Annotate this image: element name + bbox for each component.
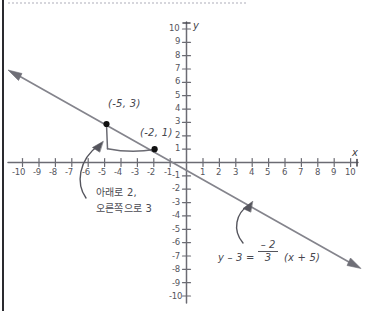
y-tick-label--4: -4 bbox=[172, 211, 180, 220]
y-tick-label-10: 10 bbox=[169, 24, 179, 33]
x-tick-label-7: 7 bbox=[298, 168, 303, 177]
x-tick-label--5: -5 bbox=[98, 168, 106, 177]
y-tick-label--7: -7 bbox=[172, 252, 180, 261]
korean-note-line-1: 아래로 2, bbox=[96, 188, 137, 198]
x-tick-label--9: -9 bbox=[33, 168, 41, 177]
axis-endcaps bbox=[183, 23, 357, 166]
x-tick-label-4: 4 bbox=[249, 168, 254, 177]
y-tick-label--8: -8 bbox=[172, 265, 180, 274]
x-axis-label: x bbox=[352, 148, 358, 158]
point-label-a: (-5, 3) bbox=[108, 99, 141, 109]
y-tick-label-6: 6 bbox=[175, 77, 180, 86]
graph-screenshot: -10 -9 -8 -7 -6 -5 -4 -3 -2 -1 1 2 3 4 5… bbox=[0, 0, 374, 311]
y-tick-label-9: 9 bbox=[175, 37, 180, 46]
y-tick-label-1: 1 bbox=[175, 144, 180, 153]
equation-denominator: 3 bbox=[258, 253, 278, 264]
x-tick-label--3: -3 bbox=[131, 168, 139, 177]
y-tick-label-5: 5 bbox=[175, 91, 180, 100]
line-arrowhead-right bbox=[347, 258, 361, 269]
point-marker-a bbox=[103, 121, 109, 127]
equation-rhs: (x + 5) bbox=[284, 253, 320, 263]
equation-lhs: y – 3 = bbox=[218, 253, 255, 263]
x-tick-label-3: 3 bbox=[233, 168, 238, 177]
x-tick-label--2: -2 bbox=[147, 168, 155, 177]
x-tick-label--7: -7 bbox=[65, 168, 73, 177]
point-label-b: (-2, 1) bbox=[140, 128, 173, 138]
y-tick-label--3: -3 bbox=[172, 198, 180, 207]
y-tick-label--2: -2 bbox=[172, 184, 180, 193]
y-tick-label-3: 3 bbox=[175, 117, 180, 126]
y-tick-label-8: 8 bbox=[175, 51, 180, 60]
plotted-line-group bbox=[8, 70, 361, 269]
equation-fraction: – 2 3 bbox=[258, 240, 278, 263]
y-tick-label-7: 7 bbox=[175, 64, 180, 73]
x-tick-label--10: -10 bbox=[12, 168, 25, 177]
y-tick-label--6: -6 bbox=[172, 238, 180, 247]
y-tick-label--5: -5 bbox=[172, 225, 180, 234]
equation-curved-arrow bbox=[237, 202, 253, 244]
note-arrow-head bbox=[93, 142, 104, 153]
x-tick-label--4: -4 bbox=[114, 168, 122, 177]
x-tick-label-5: 5 bbox=[265, 168, 270, 177]
x-tick-label-1: 1 bbox=[200, 168, 205, 177]
y-axis-label: y bbox=[193, 21, 199, 31]
step-down-segment bbox=[107, 125, 108, 149]
point-marker-b bbox=[152, 146, 158, 152]
x-tick-label--1: -1 bbox=[164, 168, 172, 177]
x-tick-label-10: 10 bbox=[345, 168, 355, 177]
x-tick-label--6: -6 bbox=[82, 168, 90, 177]
coordinate-plane bbox=[0, 0, 374, 311]
x-tick-label-9: 9 bbox=[331, 168, 336, 177]
x-tick-label-8: 8 bbox=[315, 168, 320, 177]
y-tick-label--1: -1 bbox=[172, 171, 180, 180]
y-tick-label--10: -10 bbox=[169, 292, 182, 301]
y-tick-label-4: 4 bbox=[175, 104, 180, 113]
x-tick-label-2: 2 bbox=[216, 168, 221, 177]
korean-note-line-2: 오른쪽으로 3 bbox=[96, 204, 152, 214]
y-tick-label-2: 2 bbox=[175, 131, 180, 140]
line-arrowhead-left bbox=[8, 70, 22, 81]
x-tick-label--8: -8 bbox=[49, 168, 57, 177]
x-tick-label-6: 6 bbox=[282, 168, 287, 177]
y-tick-label--9: -9 bbox=[172, 279, 180, 288]
equation-numerator: – 2 bbox=[258, 240, 278, 251]
